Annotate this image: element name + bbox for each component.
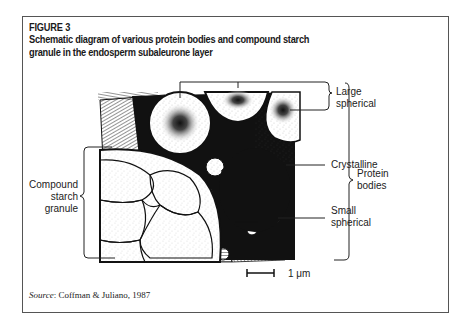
label-small-spherical: Small spherical bbox=[331, 205, 371, 229]
label-compound-starch-granule: Compound starch granule bbox=[20, 179, 78, 215]
scale-bar bbox=[247, 269, 274, 277]
label-large-spherical-line1: Large bbox=[336, 86, 376, 98]
source-text: : Coffman & Juliano, 1987 bbox=[54, 290, 151, 300]
label-compound-line2: starch bbox=[20, 191, 78, 203]
label-large-spherical-line2: spherical bbox=[336, 98, 376, 110]
label-small-spherical-line2: spherical bbox=[331, 217, 371, 229]
label-protein-bodies: Protein bodies bbox=[357, 168, 389, 192]
label-compound-line3: granule bbox=[20, 203, 78, 215]
source-citation: Source: Coffman & Juliano, 1987 bbox=[29, 290, 150, 300]
label-protein-bodies-line1: Protein bbox=[357, 168, 389, 180]
schematic-diagram bbox=[0, 0, 471, 331]
source-prefix: Source bbox=[29, 290, 54, 300]
scale-bar-label: 1 μm bbox=[288, 268, 310, 279]
label-protein-bodies-line2: bodies bbox=[357, 180, 389, 192]
label-small-spherical-line1: Small bbox=[331, 205, 371, 217]
label-compound-line1: Compound bbox=[20, 179, 78, 191]
label-large-spherical: Large spherical bbox=[336, 86, 376, 110]
